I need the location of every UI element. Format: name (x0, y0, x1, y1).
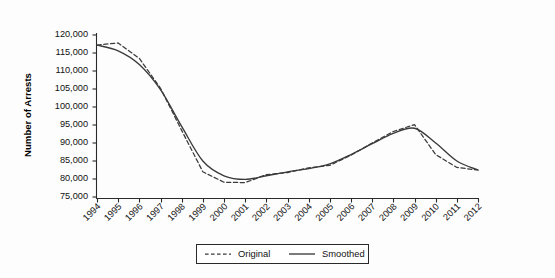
y-axis-title: Number of Arrests (22, 73, 33, 157)
y-tick-label: 95,000 (60, 119, 88, 129)
y-tick-label: 105,000 (55, 83, 88, 93)
y-tick-label: 120,000 (55, 29, 88, 39)
y-tick-label: 110,000 (55, 65, 88, 75)
y-tick-label: 115,000 (55, 47, 88, 57)
y-tick-label: 80,000 (60, 173, 88, 183)
legend-label-smoothed: Smoothed (322, 248, 365, 259)
y-tick-label: 90,000 (60, 137, 88, 147)
chart-figure: Number of Arrests 75,000 80,000 85,000 9… (0, 0, 555, 278)
line-chart: Number of Arrests 75,000 80,000 85,000 9… (0, 0, 555, 278)
chart-legend: Original Smoothed (197, 245, 369, 264)
y-tick-label: 75,000 (60, 191, 88, 201)
y-tick-label: 85,000 (60, 155, 88, 165)
y-tick-label: 100,000 (55, 101, 88, 111)
legend-label-original: Original (238, 248, 270, 259)
